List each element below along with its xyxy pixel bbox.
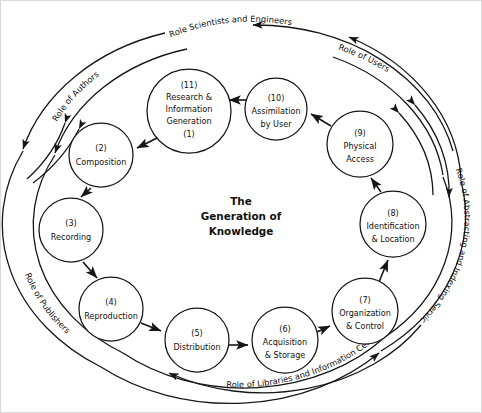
- node-label-recording: Recording: [51, 232, 91, 242]
- node-number-research-top: (11): [181, 80, 198, 90]
- node-number-identification: (8): [387, 208, 398, 218]
- node-label-assimilation-line2: by User: [261, 119, 293, 129]
- center-title-line3: Knowledge: [209, 225, 274, 237]
- node-label-identification-line1: Identification: [366, 221, 419, 231]
- flow-arrow-composition-to-recording: [81, 188, 91, 197]
- ring-label-role-scientists-and-engineers: Role Scientists and Engineers: [168, 14, 293, 40]
- ring-label-role-of-publishers: Role of Publishers: [23, 271, 72, 335]
- ring-arrow-right-inner: [399, 113, 433, 195]
- node-number-composition: (2): [95, 143, 106, 153]
- node-number-recording: (3): [65, 218, 76, 228]
- center-title-group: The Generation of Knowledge: [201, 195, 282, 237]
- node-label-identification-line2: & Location: [371, 234, 414, 244]
- node-reproduction[interactable]: [79, 277, 143, 341]
- flow-arrow-reproduction-to-distribution: [141, 323, 161, 331]
- node-number-research-bottom: (1): [183, 129, 194, 139]
- node-number-distribution: (5): [191, 328, 202, 338]
- node-label-assimilation-line1: Assimilation: [251, 106, 300, 116]
- flow-arrow-identification-to-physical-access: [371, 178, 381, 192]
- node-label-reproduction: Reproduction: [84, 311, 138, 321]
- flow-arrow-physical-access-to-assimilation: [311, 114, 331, 126]
- node-recording[interactable]: [39, 198, 103, 262]
- node-number-assimilation: (10): [268, 93, 285, 103]
- node-label-organization-line1: Organization: [339, 308, 391, 318]
- node-composition[interactable]: [69, 123, 133, 187]
- node-label-acquisition-line1: Acquisition: [263, 337, 307, 347]
- knowledge-generation-diagram: Role of Authors Role Scientists and Engi…: [1, 1, 482, 413]
- node-label-distribution: Distribution: [173, 342, 220, 352]
- node-label-composition: Composition: [76, 157, 127, 167]
- flow-arrow-recording-to-reproduction: [83, 262, 97, 278]
- node-label-organization-line2: & Control: [346, 321, 384, 331]
- node-number-reproduction: (4): [105, 297, 116, 307]
- node-label-acquisition-line2: & Storage: [265, 350, 306, 360]
- node-number-physical-access: (9): [354, 128, 365, 138]
- node-label-research-line1: Research &: [166, 92, 213, 102]
- center-title-line1: The: [230, 195, 252, 207]
- flow-arrow-organization-to-identification: [379, 260, 388, 282]
- flow-arrow-acquisition-to-organization: [317, 326, 330, 332]
- diagram-canvas: Role of Authors Role Scientists and Engi…: [0, 0, 482, 413]
- ring-label-role-of-users: Role of Users: [337, 42, 391, 74]
- center-title-line2: Generation of: [201, 210, 282, 222]
- node-number-acquisition: (6): [279, 324, 290, 334]
- node-number-organization: (7): [359, 295, 370, 305]
- node-label-physical-access-line1: Physical: [344, 141, 377, 151]
- flow-arrow-research-to-composition: [137, 137, 159, 148]
- node-label-research-line2: Information: [166, 104, 213, 114]
- node-label-research-line3: Generation: [166, 116, 211, 126]
- node-distribution[interactable]: [165, 308, 229, 372]
- node-label-physical-access-line2: Access: [346, 154, 374, 164]
